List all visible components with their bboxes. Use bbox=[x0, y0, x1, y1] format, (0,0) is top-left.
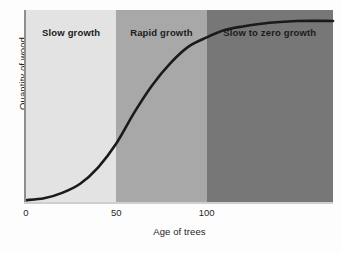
chart-figure: Quantity of wood Slow growth Rapid growt… bbox=[0, 0, 341, 254]
y-axis-line bbox=[24, 10, 26, 204]
x-axis-title: Age of trees bbox=[26, 226, 333, 237]
x-tick-label-50: 50 bbox=[96, 207, 136, 218]
x-tick-label-100: 100 bbox=[187, 207, 227, 218]
x-axis-line bbox=[24, 202, 333, 204]
x-tick-label-0: 0 bbox=[6, 207, 46, 218]
plot-area: Slow growth Rapid growth Slow to zero gr… bbox=[26, 10, 333, 202]
growth-curve-path bbox=[26, 21, 333, 200]
growth-curve bbox=[26, 10, 333, 202]
